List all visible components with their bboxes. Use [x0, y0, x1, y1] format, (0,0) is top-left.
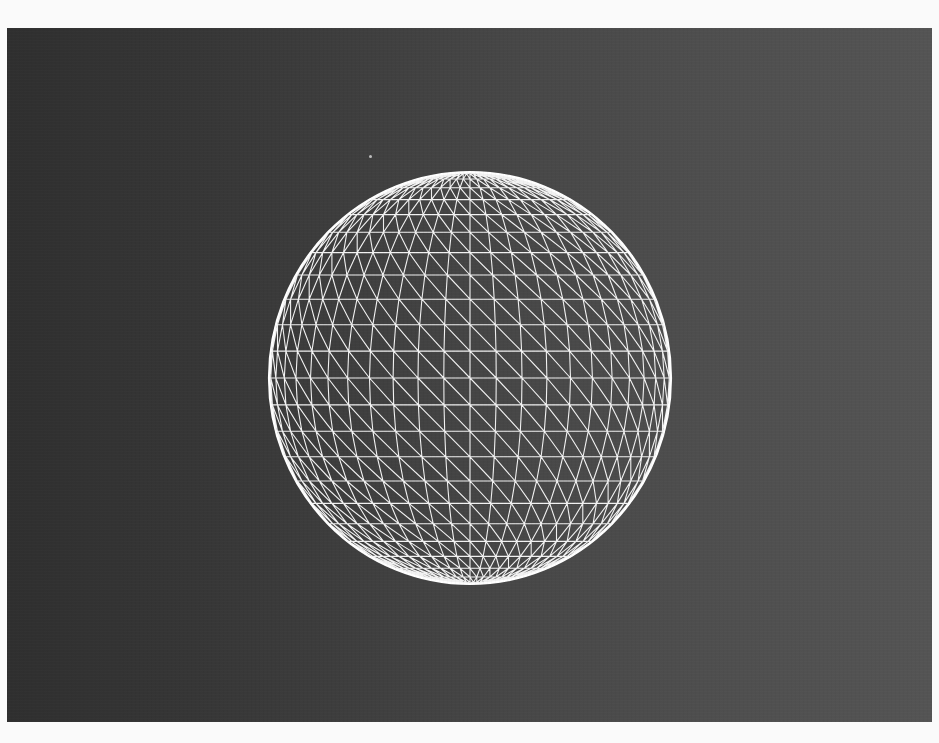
- mesh-edges: [269, 172, 671, 584]
- wireframe-sphere: [7, 28, 932, 722]
- page: [0, 0, 939, 743]
- 3d-viewport[interactable]: [7, 28, 932, 722]
- scan-artifact-speck: [369, 155, 372, 158]
- sphere-mesh: [269, 172, 671, 584]
